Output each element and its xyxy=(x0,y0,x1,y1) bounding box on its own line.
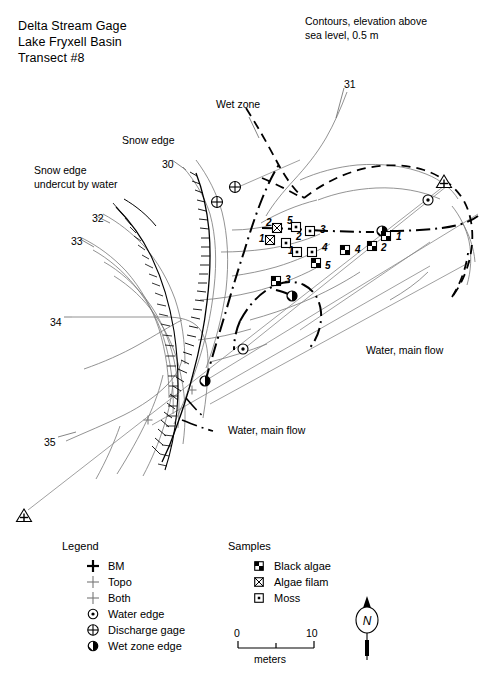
sample-marker-algae-filam xyxy=(273,224,282,233)
scale-max-label: 10 xyxy=(306,627,318,639)
discharge-gage-marker xyxy=(212,197,223,208)
title-line-1: Delta Stream Gage xyxy=(18,18,127,34)
contour-note-line-2: sea level, 0.5 m xyxy=(305,28,427,42)
legend-heading: Legend xyxy=(62,540,185,552)
legend-item-label: Moss xyxy=(274,592,300,604)
sample-marker-algae-filam xyxy=(266,236,275,245)
title-line-3: Transect #8 xyxy=(18,50,127,66)
sample-marker-black-algae xyxy=(312,259,321,268)
samples-legend-items: Black algaeAlgae filamMoss xyxy=(250,558,331,606)
wet-zone-label: Wet zone xyxy=(216,98,260,110)
sample-number-label: 1 xyxy=(396,231,402,242)
samples-legend: Samples Black algaeAlgae filamMoss xyxy=(228,540,331,606)
bm-marker xyxy=(437,175,452,188)
topo-marker xyxy=(144,416,153,425)
bm-marker xyxy=(17,509,32,522)
snow-edge-label: Snow edge xyxy=(122,134,175,146)
water-edge-marker xyxy=(423,195,433,205)
wet-zone-edge-marker xyxy=(287,291,297,301)
water-main-flow-label-lower: Water, main flow xyxy=(228,424,305,436)
legend-row: Discharge gage xyxy=(84,622,185,638)
legend-row: Moss xyxy=(250,590,331,606)
contour-label: 33 xyxy=(71,235,83,247)
water-main-flow-label-right: Water, main flow xyxy=(366,344,443,356)
moss-icon xyxy=(250,590,268,606)
sample-number-label: 4 xyxy=(322,242,328,253)
legend-item-label: BM xyxy=(108,560,125,572)
contour-label: 30 xyxy=(162,158,174,170)
sample-marker-black-algae xyxy=(368,242,377,251)
legend-row: Wet zone edge xyxy=(84,638,185,654)
water-edge-marker xyxy=(238,344,248,354)
legend-row: Algae filam xyxy=(250,574,331,590)
samples-legend-heading: Samples xyxy=(228,540,331,552)
sample-number-label: 1 xyxy=(288,245,294,256)
title-line-2: Lake Fryxell Basin xyxy=(18,34,127,50)
topo-marker xyxy=(188,386,197,395)
sample-number-label: 5 xyxy=(325,260,331,271)
sample-marker-moss xyxy=(308,248,317,257)
sample-marker-black-algae xyxy=(382,232,391,241)
legend-item-label: Algae filam xyxy=(274,576,328,588)
sample-number-label: 5 xyxy=(287,215,293,226)
sample-number-label: 3 xyxy=(320,224,326,235)
legend-row: Both xyxy=(84,590,185,606)
legend-row: BM xyxy=(84,558,185,574)
contour-label: 31 xyxy=(344,78,356,90)
north-label: N xyxy=(363,614,372,628)
legend-row: Black algae xyxy=(250,558,331,574)
sample-number-label: 2 xyxy=(381,242,387,253)
bm-icon xyxy=(84,558,102,574)
water-edge-lines xyxy=(182,398,213,431)
water-edge-icon xyxy=(84,606,102,622)
contour-label: 35 xyxy=(44,436,56,448)
sample-number-label: 1 xyxy=(259,233,265,244)
legend-item-label: Both xyxy=(108,592,131,604)
legend-item-label: Topo xyxy=(108,576,132,588)
sample-number-label: 3 xyxy=(285,274,291,285)
figure-title: Delta Stream Gage Lake Fryxell Basin Tra… xyxy=(18,18,127,66)
sample-number-label: 2 xyxy=(296,231,302,242)
scale-min-label: 0 xyxy=(234,627,240,639)
legend-item-label: Black algae xyxy=(274,560,331,572)
legend-item-label: Discharge gage xyxy=(108,624,185,636)
discharge-gage-marker xyxy=(230,182,241,193)
algae-filam-icon xyxy=(250,574,268,590)
topo-icon xyxy=(84,574,102,590)
contour-note-line-1: Contours, elevation above xyxy=(305,14,427,28)
snow-edge-undercut-line-2: undercut by water xyxy=(34,177,117,191)
both-icon xyxy=(84,590,102,606)
legend-item-label: Water edge xyxy=(108,608,164,620)
wet-zone-boundary xyxy=(246,108,472,297)
sample-marker-black-algae xyxy=(341,246,350,255)
scale-bar xyxy=(238,641,314,648)
legend-row: Topo xyxy=(84,574,185,590)
sample-marker-moss xyxy=(306,227,315,236)
black-algae-icon xyxy=(250,558,268,574)
legend-row: Water edge xyxy=(84,606,185,622)
sample-marker-black-algae xyxy=(272,277,281,286)
north-arrow: N xyxy=(356,596,378,660)
wet-zone-edge-marker xyxy=(200,376,210,386)
legend-item-label: Wet zone edge xyxy=(108,640,182,652)
contour-note: Contours, elevation above sea level, 0.5… xyxy=(305,14,427,42)
contour-label: 34 xyxy=(50,316,62,328)
sample-number-label: 2 xyxy=(266,217,272,228)
scale-unit-label: meters xyxy=(254,653,286,665)
snow-edge-undercut-label: Snow edge undercut by water xyxy=(34,163,117,191)
discharge-gage-icon xyxy=(84,622,102,638)
contour-label: 32 xyxy=(92,212,104,224)
wet-zone-edge-icon xyxy=(84,638,102,654)
sample-number-label: 4 xyxy=(355,244,361,255)
legend: Legend BMTopoBothWater edgeDischarge gag… xyxy=(62,540,185,654)
legend-items: BMTopoBothWater edgeDischarge gageWet zo… xyxy=(84,558,185,654)
map-figure: N Delta Stream Gage Lake Fryxell Basin T… xyxy=(0,0,487,685)
snow-edge-undercut-line-1: Snow edge xyxy=(34,163,117,177)
